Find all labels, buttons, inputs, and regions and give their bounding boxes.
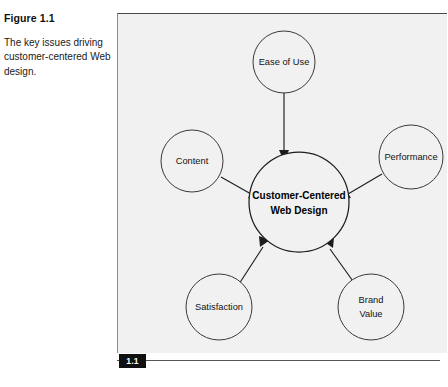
- figure-panel: Customer-Centered Web Design Ease of Use…: [117, 13, 447, 353]
- node-center-circle: [249, 152, 349, 252]
- connector-satisfaction: [239, 247, 263, 284]
- node-ease-of-use: Ease of Use: [253, 31, 315, 93]
- node-brand-value-label-line1: Brand: [359, 295, 384, 305]
- figure-number-badge: 1.1: [119, 354, 146, 368]
- figure-caption-block: Figure 1.1 The key issues driving custom…: [4, 12, 112, 80]
- node-brand-value-label-line2: Value: [359, 309, 382, 319]
- node-content-label: Content: [176, 156, 209, 166]
- node-satisfaction-label: Satisfaction: [195, 302, 243, 312]
- node-center-label-line1: Customer-Centered: [252, 190, 345, 201]
- node-center: Customer-Centered Web Design: [249, 152, 349, 252]
- node-ease-of-use-label: Ease of Use: [259, 57, 310, 67]
- node-performance: Performance: [379, 125, 443, 189]
- node-performance-label: Performance: [384, 152, 437, 162]
- connector-content: [221, 177, 251, 194]
- figure-label: Figure 1.1: [4, 12, 112, 25]
- figure-bottom-rule: [117, 360, 440, 361]
- connector-performance: [348, 174, 382, 194]
- node-satisfaction: Satisfaction: [186, 274, 252, 340]
- node-center-label-line2: Web Design: [270, 205, 327, 216]
- connector-brand-value: [330, 249, 355, 284]
- node-content: Content: [161, 130, 223, 192]
- figure-caption-text: The key issues driving customer-centered…: [4, 36, 112, 80]
- node-brand-value-circle: [338, 274, 404, 340]
- node-brand-value: Brand Value: [338, 274, 404, 340]
- hub-and-spoke-diagram: Customer-Centered Web Design Ease of Use…: [118, 14, 448, 354]
